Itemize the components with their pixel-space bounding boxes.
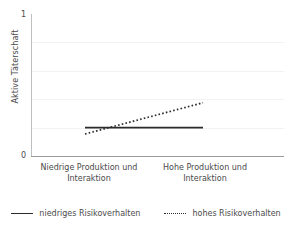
- x-axis-tick-low: Niedrige Produktion und Interaktion: [29, 162, 149, 184]
- y-axis-tick-0: 0: [6, 151, 26, 160]
- gridline-0-6: [31, 71, 284, 72]
- chart-legend: niedriges Risikoverhalten hohes Risikove…: [0, 204, 292, 222]
- interaction-line-chart: 1 0 Aktive Täterschaft Niedrige Produkti…: [0, 0, 292, 230]
- dotted-line-swatch-icon: [164, 213, 186, 214]
- legend-label: niedriges Risikoverhalten: [39, 209, 140, 218]
- gridline-0-8: [31, 42, 284, 43]
- y-axis-line: [31, 14, 32, 157]
- y-axis-tick-1: 1: [6, 10, 26, 19]
- gridline-0-2: [31, 128, 284, 129]
- legend-label: hohes Risikoverhalten: [192, 209, 280, 218]
- solid-line-swatch-icon: [11, 213, 33, 214]
- gridline-0-4: [31, 99, 284, 100]
- legend-item-hohes-risikoverhalten[interactable]: hohes Risikoverhalten: [164, 209, 280, 218]
- x-axis-tick-high: Hohe Produktion und Interaktion: [145, 162, 265, 184]
- y-axis-title: Aktive Täterschaft: [11, 22, 20, 112]
- x-axis-line: [31, 156, 284, 157]
- plot-area: [31, 14, 284, 156]
- legend-item-niedriges-risikoverhalten[interactable]: niedriges Risikoverhalten: [11, 209, 140, 218]
